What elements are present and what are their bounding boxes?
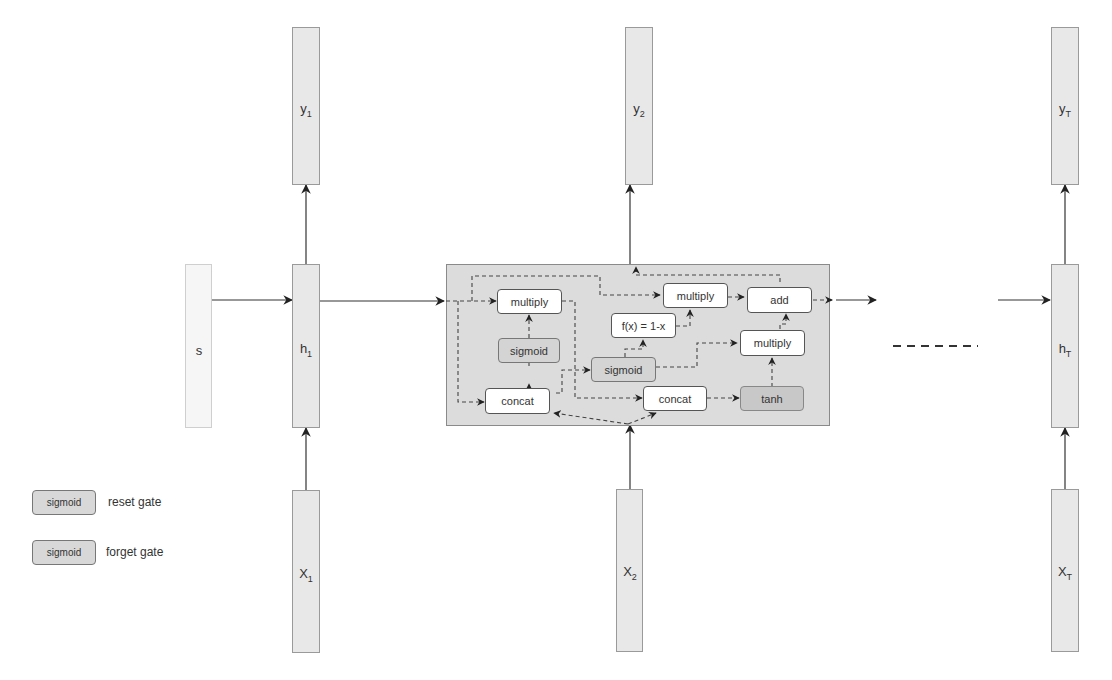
concat-1-op: concat: [485, 388, 550, 414]
multiply-right-op: multiply: [740, 330, 805, 356]
multiply-top-op: multiply: [663, 283, 728, 308]
tanh-op: tanh: [740, 386, 804, 411]
concat-2-op: concat: [643, 386, 707, 411]
multiply-reset-op: multiply: [497, 289, 562, 314]
add-op: add: [747, 287, 812, 313]
one-minus-op: f(x) = 1-x: [611, 313, 676, 338]
sigmoid-forget-gate: sigmoid: [591, 357, 656, 382]
sigmoid-reset-gate: sigmoid: [498, 338, 560, 363]
